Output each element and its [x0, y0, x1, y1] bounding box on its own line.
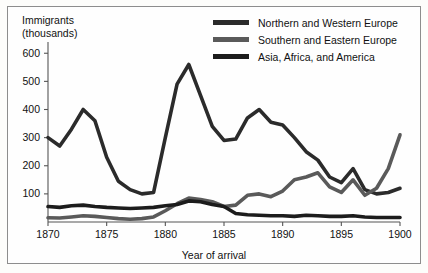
legend-label: Southern and Eastern Europe: [258, 34, 397, 46]
legend-item: Southern and Eastern Europe: [213, 32, 413, 47]
legend-swatch-icon: [213, 37, 249, 42]
y-tick-label: 500: [6, 75, 40, 87]
series-line: [48, 65, 400, 194]
legend-item: Asia, Africa, and America: [213, 49, 413, 64]
x-tick-label: 1895: [319, 228, 363, 240]
x-tick-label: 1900: [378, 228, 422, 240]
x-tick-label: 1885: [202, 228, 246, 240]
y-tick-label: 300: [6, 131, 40, 143]
x-tick-label: 1870: [26, 228, 70, 240]
chart-figure: Immigrants (thousands) 10020030040050060…: [0, 0, 428, 273]
y-tick-label: 600: [6, 47, 40, 59]
x-tick-label: 1880: [143, 228, 187, 240]
x-tick-label: 1875: [85, 228, 129, 240]
legend-label: Asia, Africa, and America: [258, 51, 375, 63]
y-tick-label: 400: [6, 103, 40, 115]
legend-swatch-icon: [213, 54, 249, 59]
x-tick-label: 1890: [261, 228, 305, 240]
legend-swatch-icon: [213, 20, 249, 25]
plot-area: 100200300400500600 187018751880188518901…: [48, 42, 400, 222]
x-axis-title: Year of arrival: [0, 249, 428, 261]
y-axis-title: Immigrants (thousands): [22, 14, 77, 39]
line-chart-svg: [48, 42, 400, 222]
series-lines: [48, 65, 400, 220]
legend-label: Northern and Western Europe: [258, 17, 398, 29]
series-line: [48, 201, 400, 218]
y-tick-label: 200: [6, 159, 40, 171]
y-tick-label: 100: [6, 187, 40, 199]
axis-lines: [48, 42, 400, 222]
chart-legend: Northern and Western Europe Southern and…: [213, 15, 413, 66]
legend-item: Northern and Western Europe: [213, 15, 413, 30]
